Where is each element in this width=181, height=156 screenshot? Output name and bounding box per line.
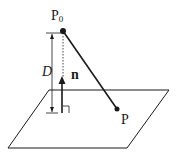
label-distance: D [42,65,52,79]
right-angle-marker [63,106,69,113]
plane [8,90,169,148]
label-p0-base: P [51,8,59,23]
diagram-svg [0,0,181,156]
normal-arrowhead-icon [59,76,66,84]
dimension-arrow-bottom-icon [50,107,54,112]
label-p: P [121,113,129,127]
point-p0 [60,28,66,34]
dimension-arrow-top-icon [50,34,54,39]
diagram-canvas: P0 P D n [0,0,181,156]
point-p [115,107,120,112]
label-p0: P0 [51,9,63,24]
label-p0-subscript: 0 [59,14,64,24]
label-normal: n [71,68,79,82]
